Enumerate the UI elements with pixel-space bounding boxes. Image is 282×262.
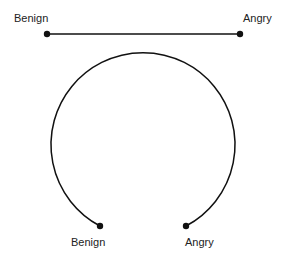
circular-right-label: Angry [185,236,214,248]
circular-left-endpoint [97,223,103,229]
linear-right-endpoint [237,31,243,37]
circular-left-label: Benign [71,236,105,248]
linear-left-endpoint [44,31,50,37]
linear-right-label: Angry [243,12,272,24]
circular-right-endpoint [183,223,189,229]
diagram-canvas [0,0,282,262]
circular-scale-arc [51,53,235,226]
linear-left-label: Benign [14,12,48,24]
